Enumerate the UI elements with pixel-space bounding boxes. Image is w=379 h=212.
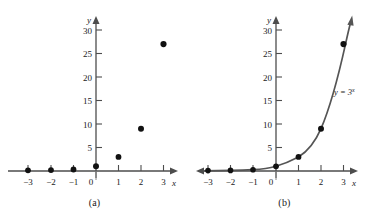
data-point-a-4 bbox=[116, 154, 122, 160]
data-point-b-5 bbox=[318, 126, 324, 132]
x-axis-arrow-a bbox=[170, 167, 178, 174]
y-tick-label-b-2: 15 bbox=[263, 96, 273, 106]
y-axis-label-b: y bbox=[266, 15, 271, 25]
curve-arrow-b bbox=[347, 16, 353, 26]
x-axis-label-b: x bbox=[351, 178, 356, 188]
curve-equation-base: y = 3 bbox=[333, 87, 352, 97]
x-axis-label-a: x bbox=[171, 178, 176, 188]
data-point-b-3 bbox=[273, 163, 279, 169]
y-axis-arrow-b bbox=[273, 16, 280, 24]
y-ticks-a bbox=[96, 30, 102, 148]
data-point-a-2 bbox=[71, 167, 77, 173]
data-point-b-1 bbox=[228, 168, 234, 174]
curve-equation-exponent: x bbox=[351, 87, 355, 93]
x-tick-label-a-0: −3 bbox=[23, 177, 33, 187]
scatter-plot-a: −3 −2 −1 0 1 2 3 5 10 15 20 25 30 x y bbox=[0, 0, 189, 212]
line-plot-b: −3 −2 −1 0 1 2 3 5 10 15 20 25 30 x y bbox=[190, 0, 379, 212]
y-tick-label-a-3: 20 bbox=[83, 73, 93, 83]
data-point-b-6 bbox=[340, 41, 346, 47]
figure-container: −3 −2 −1 0 1 2 3 5 10 15 20 25 30 x y bbox=[0, 0, 379, 212]
x-tick-label-a-5: 2 bbox=[139, 177, 144, 187]
x-tick-label-b-4: 1 bbox=[296, 177, 301, 187]
data-point-b-2 bbox=[250, 167, 256, 173]
y-tick-label-a-4: 25 bbox=[83, 49, 93, 59]
x-tick-label-b-2: −1 bbox=[248, 177, 258, 187]
y-tick-label-b-3: 20 bbox=[263, 73, 273, 83]
y-tick-label-a-0: 5 bbox=[88, 143, 93, 153]
data-point-a-5 bbox=[138, 126, 144, 132]
data-point-a-6 bbox=[160, 41, 166, 47]
panel-a: −3 −2 −1 0 1 2 3 5 10 15 20 25 30 x y bbox=[0, 0, 189, 212]
x-axis-arrow-right-b bbox=[350, 167, 358, 174]
y-tick-label-b-4: 25 bbox=[263, 49, 273, 59]
panel-caption-b: (b) bbox=[190, 197, 379, 208]
y-tick-label-b-0: 5 bbox=[268, 143, 273, 153]
x-tick-label-a-2: −1 bbox=[69, 177, 79, 187]
data-point-b-4 bbox=[296, 154, 302, 160]
y-ticks-b bbox=[276, 30, 282, 148]
data-point-a-3 bbox=[93, 163, 99, 169]
x-axis-arrow-left-b bbox=[196, 167, 204, 174]
x-tick-label-a-1: −2 bbox=[46, 177, 56, 187]
x-tick-label-a-4: 1 bbox=[116, 177, 121, 187]
panel-b: −3 −2 −1 0 1 2 3 5 10 15 20 25 30 x y bbox=[190, 0, 379, 212]
panel-caption-a: (a) bbox=[0, 197, 189, 208]
y-axis-arrow-a bbox=[93, 16, 100, 24]
data-point-b-0 bbox=[205, 168, 211, 174]
x-tick-label-b-1: −2 bbox=[226, 177, 236, 187]
x-tick-label-a-6: 3 bbox=[161, 177, 166, 187]
x-tick-label-b-3: 0 bbox=[269, 177, 274, 187]
data-point-a-0 bbox=[25, 167, 31, 173]
y-tick-label-b-1: 10 bbox=[263, 120, 273, 130]
curve-equation-label-b: y = 3x bbox=[333, 87, 355, 98]
exponential-curve-b bbox=[204, 23, 351, 171]
y-tick-label-a-1: 10 bbox=[83, 120, 93, 130]
x-tick-label-b-6: 3 bbox=[341, 177, 346, 187]
x-tick-label-b-0: −3 bbox=[203, 177, 213, 187]
y-axis-label-a: y bbox=[86, 15, 91, 25]
y-tick-label-b-5: 30 bbox=[263, 26, 273, 36]
y-tick-label-a-2: 15 bbox=[83, 96, 93, 106]
x-tick-label-b-5: 2 bbox=[319, 177, 324, 187]
y-tick-label-a-5: 30 bbox=[83, 26, 93, 36]
x-tick-label-a-3: 0 bbox=[89, 177, 94, 187]
data-point-a-1 bbox=[48, 167, 54, 173]
